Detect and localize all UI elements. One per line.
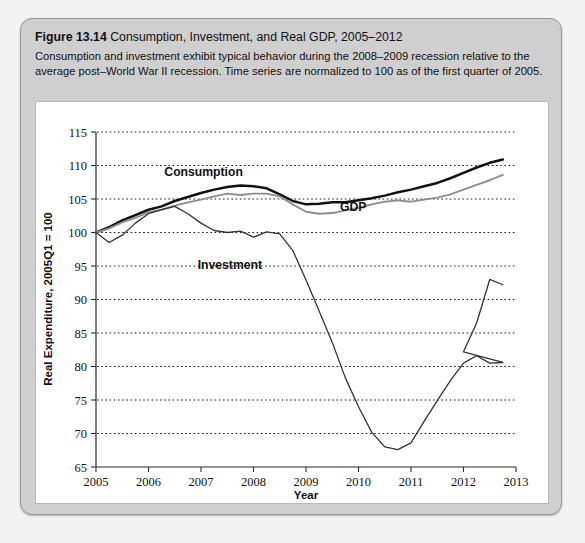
figure-label: Figure 13.14 — [35, 30, 107, 44]
x-tick-label: 2009 — [294, 475, 319, 489]
chart-plot-panel: 65707580859095100105110115 2005200620072… — [35, 101, 549, 504]
x-axis-ticks-group: 200520062007200820092010201120122013 — [84, 467, 529, 489]
data-series-group — [96, 159, 503, 449]
figure-card: Figure 13.14 Consumption, Investment, an… — [20, 18, 562, 515]
y-tick-label: 105 — [68, 193, 87, 207]
line-chart: 65707580859095100105110115 2005200620072… — [36, 102, 548, 503]
y-tick-label: 115 — [69, 126, 87, 140]
series-label-consumption: Consumption — [164, 165, 243, 179]
y-tick-label: 100 — [68, 226, 87, 240]
x-tick-label: 2006 — [136, 475, 161, 489]
y-tick-label: 80 — [75, 360, 88, 374]
x-tick-label: 2008 — [241, 475, 266, 489]
series-line-investment — [96, 206, 503, 449]
series-label-investment: Investment — [198, 258, 262, 272]
y-tick-label: 90 — [75, 293, 88, 307]
x-tick-label: 2007 — [189, 475, 214, 489]
y-tick-label: 110 — [69, 159, 87, 173]
y-tick-label: 75 — [75, 394, 88, 408]
y-tick-label: 85 — [75, 327, 88, 341]
y-tick-label: 70 — [75, 427, 88, 441]
figure-title: Figure 13.14 Consumption, Investment, an… — [35, 29, 547, 46]
y-tick-label: 65 — [75, 461, 88, 475]
x-tick-label: 2013 — [504, 475, 529, 489]
y-tick-label: 95 — [75, 260, 88, 274]
x-tick-label: 2011 — [399, 475, 424, 489]
figure-caption-block: Figure 13.14 Consumption, Investment, an… — [35, 29, 547, 79]
x-tick-label: 2010 — [346, 475, 371, 489]
figure-title-text: Consumption, Investment, and Real GDP, 2… — [110, 30, 402, 44]
x-tick-label: 2005 — [84, 475, 109, 489]
y-axis-title: Real Expenditure, 2005Q1 = 100 — [42, 212, 54, 386]
x-axis-title: Year — [294, 489, 319, 501]
figure-description: Consumption and investment exhibit typic… — [35, 49, 547, 79]
y-axis-ticks-group: 65707580859095100105110115 — [68, 126, 96, 475]
series-label-gdp: GDP — [340, 200, 366, 214]
x-tick-label: 2012 — [451, 475, 476, 489]
